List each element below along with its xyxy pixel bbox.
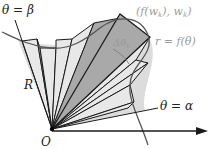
label-origin: O: [41, 135, 51, 149]
origin-point: [50, 127, 54, 131]
polar-area-diagram: θ = β θ = α R O (f(wk), wk) r = f(θ) Δθk: [0, 0, 211, 149]
label-point: (f(wk), wk): [136, 5, 192, 19]
label-region-r: R: [23, 78, 33, 92]
label-theta-alpha: θ = α: [160, 99, 193, 113]
label-theta-beta: θ = β: [2, 3, 34, 17]
label-curve: r = f(θ): [155, 35, 196, 48]
axis-arrow-icon: [196, 127, 208, 135]
